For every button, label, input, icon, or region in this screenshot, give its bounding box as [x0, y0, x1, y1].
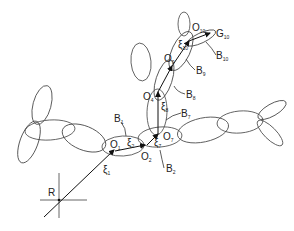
- label-xi2: ξ2: [127, 137, 134, 149]
- label-b1: B1: [114, 113, 124, 125]
- label-origin-r: R: [48, 187, 55, 198]
- svg-text:B1: B1: [114, 113, 124, 125]
- svg-text:B9: B9: [196, 65, 206, 77]
- svg-text:ξ10: ξ10: [178, 39, 188, 51]
- articulated-body-diagram: R O1 O2 O4 O7 O9 O10 G10 B1 B2 B7 B8 B9 …: [0, 0, 294, 231]
- svg-text:B10: B10: [216, 50, 228, 62]
- label-o1: O1: [110, 139, 121, 151]
- label-xi7: ξ7: [154, 137, 161, 149]
- label-b2: B2: [166, 163, 176, 175]
- segment-right-lower-lobe: [254, 117, 287, 150]
- label-xi10: ξ10: [178, 39, 188, 51]
- label-o2: O2: [141, 151, 152, 163]
- vector-xi1: [44, 150, 114, 217]
- svg-text:B8: B8: [186, 89, 196, 101]
- svg-text:B7: B7: [181, 108, 191, 120]
- label-b10: B10: [216, 50, 228, 62]
- label-xi1: ξ1: [103, 164, 110, 176]
- label-b7: B7: [181, 108, 191, 120]
- label-o9: O9: [164, 53, 175, 65]
- label-o7: O7: [163, 131, 174, 143]
- segment-side-lobe: [129, 42, 152, 82]
- segment-right-2: [216, 109, 264, 135]
- label-b8: B8: [186, 89, 196, 101]
- label-xi8: ξ8: [161, 101, 168, 113]
- label-o10: O10: [192, 22, 206, 34]
- svg-text:O9: O9: [164, 53, 175, 65]
- svg-text:O2: O2: [141, 151, 152, 163]
- svg-text:ξ8: ξ8: [161, 101, 168, 113]
- labels: R O1 O2 O4 O7 O9 O10 G10 B1 B2 B7 B8 B9 …: [48, 22, 230, 198]
- segment-top-lobe: [178, 12, 190, 36]
- svg-text:ξ2: ξ2: [127, 137, 134, 149]
- svg-text:B2: B2: [166, 163, 176, 175]
- svg-text:O10: O10: [192, 22, 206, 34]
- label-b9: B9: [196, 65, 206, 77]
- segment-left-mid: [58, 118, 110, 157]
- vector-xi9: [158, 66, 172, 92]
- chain-segments: [13, 12, 289, 166]
- svg-text:G10: G10: [216, 28, 230, 40]
- segment-right-upper-lobe: [255, 97, 289, 123]
- svg-text:O1: O1: [110, 139, 121, 151]
- label-g10: G10: [216, 28, 230, 40]
- svg-text:ξ1: ξ1: [103, 164, 110, 176]
- svg-text:ξ7: ξ7: [154, 137, 161, 149]
- svg-text:O7: O7: [163, 131, 174, 143]
